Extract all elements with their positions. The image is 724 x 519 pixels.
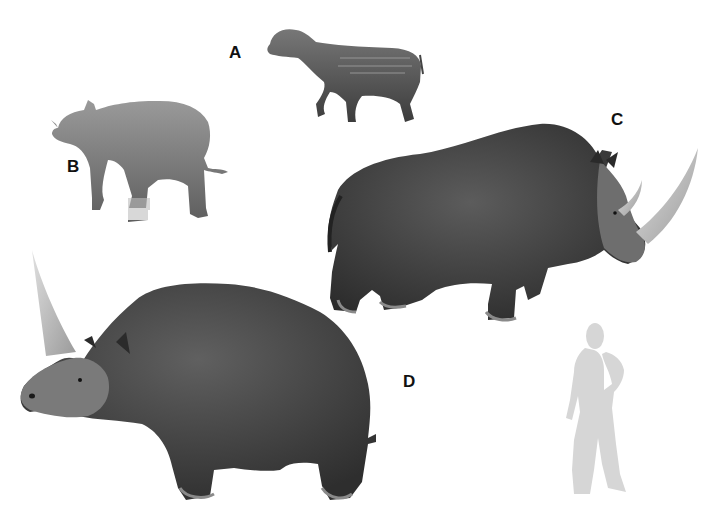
figure-illustration bbox=[0, 0, 724, 519]
label-c: C bbox=[611, 111, 623, 128]
label-d: D bbox=[403, 373, 415, 390]
animal-d bbox=[21, 250, 376, 500]
animal-c bbox=[328, 124, 698, 320]
human-scale-silhouette bbox=[566, 323, 626, 494]
figure-canvas: A B C D bbox=[0, 0, 724, 519]
label-a: A bbox=[229, 44, 241, 61]
animal-a bbox=[267, 29, 423, 122]
label-b: B bbox=[67, 158, 79, 175]
